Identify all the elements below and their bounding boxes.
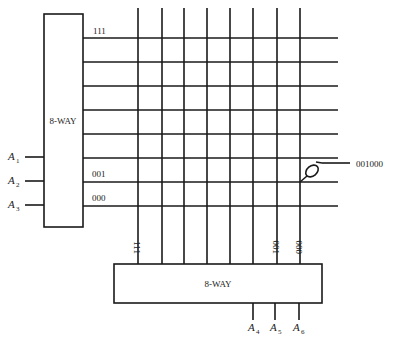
column-label-001: 001 — [271, 241, 281, 255]
input-a5: A 5 — [269, 321, 282, 336]
input-a6: A 6 — [292, 321, 305, 336]
row-label-001: 001 — [92, 169, 106, 179]
decoder-matrix-diagram: 8-WAY 8-WAY 111 001 000 111 001 000 0010… — [0, 0, 396, 340]
bottom-decoder-label: 8-WAY — [204, 279, 232, 289]
svg-text:A: A — [269, 321, 277, 333]
svg-text:A: A — [7, 174, 15, 186]
svg-text:3: 3 — [16, 205, 20, 213]
row-label-111: 111 — [93, 26, 106, 36]
input-a1: A 1 — [7, 150, 20, 165]
svg-text:4: 4 — [256, 328, 260, 336]
svg-text:5: 5 — [278, 328, 282, 336]
svg-text:A: A — [247, 321, 255, 333]
column-lines — [138, 8, 300, 264]
input-a3: A 3 — [7, 198, 20, 213]
row-label-000: 000 — [92, 193, 106, 203]
column-label-000: 000 — [294, 241, 304, 255]
svg-text:2: 2 — [16, 181, 20, 189]
input-a2: A 2 — [7, 174, 20, 189]
svg-text:6: 6 — [301, 328, 305, 336]
svg-text:A: A — [7, 198, 15, 210]
svg-text:A: A — [7, 150, 15, 162]
svg-text:1: 1 — [16, 157, 20, 165]
input-a4: A 4 — [247, 321, 260, 336]
and-gate-icon — [300, 162, 350, 182]
svg-text:A: A — [292, 321, 300, 333]
selected-output-label: 001000 — [356, 159, 384, 169]
left-decoder-label: 8-WAY — [49, 116, 77, 126]
column-label-111: 111 — [132, 241, 142, 254]
